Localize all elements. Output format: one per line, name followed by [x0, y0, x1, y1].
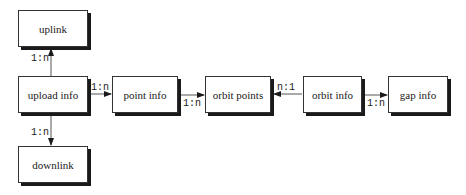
- node-orbit-points: orbit points: [205, 76, 271, 113]
- er-diagram: uplink upload info downlink point info o…: [0, 0, 466, 195]
- cardinality-orbitinfo-orbitpoints: n:1: [277, 83, 295, 93]
- node-label: orbit info: [312, 89, 353, 101]
- cardinality-upload-downlink: 1:n: [31, 128, 49, 138]
- node-label: uplink: [39, 23, 67, 35]
- cardinality-upload-uplink: 1:n: [31, 54, 49, 64]
- node-label: orbit points: [213, 89, 263, 101]
- node-label: gap info: [400, 89, 436, 101]
- node-label: downlink: [32, 159, 74, 171]
- node-upload-info: upload info: [18, 76, 88, 113]
- node-label: point info: [123, 89, 166, 101]
- node-label: upload info: [28, 89, 78, 101]
- node-uplink: uplink: [18, 10, 88, 47]
- node-downlink: downlink: [18, 146, 88, 183]
- node-orbit-info: orbit info: [303, 76, 362, 113]
- node-gap-info: gap info: [388, 76, 448, 113]
- cardinality-upload-point: 1:n: [91, 83, 109, 93]
- cardinality-orbitinfo-gap: 1:n: [367, 99, 385, 109]
- node-point-info: point info: [112, 76, 178, 113]
- cardinality-point-orbitpoints: 1:n: [183, 99, 201, 109]
